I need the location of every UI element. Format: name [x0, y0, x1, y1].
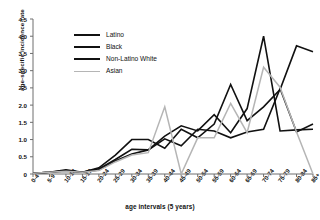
legend-line-swatch	[74, 34, 100, 36]
legend-line-swatch	[74, 71, 100, 72]
legend-item[interactable]: Asian	[74, 65, 182, 77]
chart-container: age-specific incidence rate age interval…	[0, 0, 320, 220]
chart-legend: LatinoBlackNon-Latino WhiteAsian	[74, 29, 182, 77]
legend-label: Latino	[106, 31, 124, 39]
legend-label: Asian	[106, 67, 123, 75]
legend-item[interactable]: Latino	[74, 29, 182, 41]
legend-line-swatch	[74, 46, 100, 48]
legend-label: Non-Latino White	[106, 55, 157, 63]
legend-label: Black	[106, 43, 122, 51]
legend-line-swatch	[74, 58, 100, 60]
legend-item[interactable]: Non-Latino White	[74, 53, 182, 65]
legend-item[interactable]: Black	[74, 41, 182, 53]
